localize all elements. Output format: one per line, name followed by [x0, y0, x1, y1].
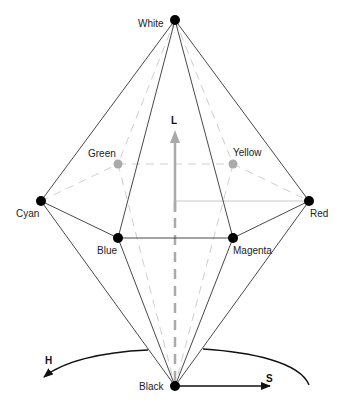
label-magenta: Magenta — [233, 245, 272, 256]
label-blue: Blue — [97, 245, 117, 256]
label-saturation-axis: S — [266, 373, 273, 384]
vertex-red — [304, 196, 314, 206]
vertex-magenta — [228, 233, 238, 243]
label-cyan: Cyan — [16, 208, 39, 219]
label-yellow: Yellow — [233, 147, 262, 158]
vertex-black — [170, 381, 180, 391]
vertex-blue — [113, 233, 123, 243]
label-green: Green — [88, 148, 116, 159]
label-lightness-axis: L — [171, 115, 177, 126]
hue-arc-left — [44, 350, 148, 377]
vertex-cyan — [36, 196, 46, 206]
label-black: Black — [139, 381, 164, 392]
lightness-arrow-head-icon — [170, 130, 180, 143]
diagram-svg: White Green Yellow Cyan Red Blue Magenta… — [0, 0, 341, 405]
label-white: White — [138, 18, 164, 29]
hue-arc-right — [203, 349, 309, 385]
label-hue-axis: H — [45, 355, 52, 366]
label-red: Red — [310, 208, 328, 219]
vertex-green — [114, 160, 123, 169]
vertex-white — [170, 15, 180, 25]
vertex-yellow — [229, 160, 238, 169]
hsl-hexcone-diagram: White Green Yellow Cyan Red Blue Magenta… — [0, 0, 341, 405]
